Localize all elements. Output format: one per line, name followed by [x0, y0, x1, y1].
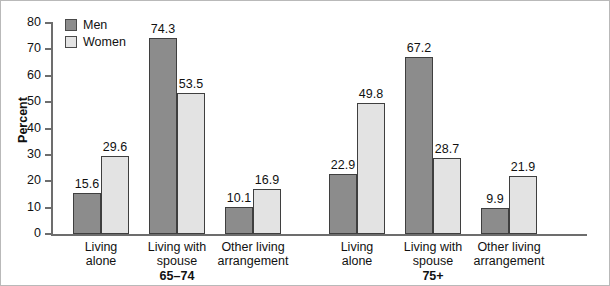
x-category-label: Other living arrangement: [205, 241, 301, 268]
bar-value-label: 28.7: [425, 143, 469, 156]
bar-men: [149, 38, 177, 234]
bar-women: [101, 156, 129, 234]
bar-value-label: 16.9: [245, 174, 289, 187]
bar-men: [329, 174, 357, 234]
bar-men: [73, 193, 101, 234]
y-tick-40: [45, 128, 53, 130]
y-tick-50: [45, 101, 53, 103]
legend-item-women: Women: [65, 34, 126, 50]
group-label-75-plus: 75+: [329, 270, 537, 283]
bar-women: [509, 176, 537, 234]
bar-value-label: 29.6: [93, 141, 137, 154]
x-axis-line: [51, 234, 587, 236]
legend-swatch-women: [65, 36, 77, 48]
legend-label-women: Women: [83, 36, 126, 49]
bar-men: [225, 207, 253, 234]
bar-value-label: 53.5: [169, 78, 213, 91]
legend-label-men: Men: [83, 19, 107, 32]
bar-value-label: 74.3: [141, 23, 185, 36]
bar-women: [253, 189, 281, 234]
y-tick-label-10: 10: [1, 201, 41, 214]
bar-men: [481, 208, 509, 234]
bar-value-label: 21.9: [501, 161, 545, 174]
chart-legend: Men Women: [65, 17, 126, 51]
bar-value-label: 49.8: [349, 88, 393, 101]
legend-item-men: Men: [65, 17, 126, 33]
y-tick-label-20: 20: [1, 174, 41, 187]
y-tick-10: [45, 207, 53, 209]
bar-women: [177, 93, 205, 234]
chart-screenshot: Percent 01020304050607080 Men Women 15.6…: [0, 0, 610, 286]
y-tick-label-50: 50: [1, 95, 41, 108]
y-tick-80: [45, 22, 53, 24]
bar-women: [433, 158, 461, 234]
y-tick-70: [45, 48, 53, 50]
group-label-65-74: 65–74: [73, 270, 281, 283]
y-tick-label-70: 70: [1, 42, 41, 55]
bar-chart-plot-area: Percent 01020304050607080 Men Women 15.6…: [1, 1, 610, 286]
y-tick-30: [45, 154, 53, 156]
y-tick-label-60: 60: [1, 69, 41, 82]
x-category-label: Other living arrangement: [461, 241, 557, 268]
y-tick-label-0: 0: [1, 227, 41, 240]
y-tick-20: [45, 180, 53, 182]
legend-swatch-men: [65, 19, 77, 31]
bar-women: [357, 103, 385, 234]
y-tick-0: [45, 233, 53, 235]
y-tick-label-30: 30: [1, 148, 41, 161]
y-tick-label-40: 40: [1, 122, 41, 135]
y-tick-60: [45, 75, 53, 77]
bar-value-label: 67.2: [397, 42, 441, 55]
y-tick-label-80: 80: [1, 16, 41, 29]
